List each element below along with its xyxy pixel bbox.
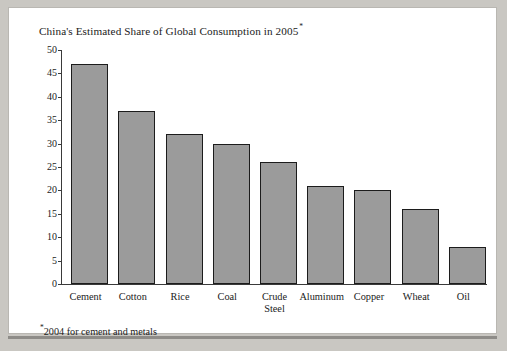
bar-coal[interactable] — [213, 44, 250, 284]
bar-rect — [166, 134, 203, 284]
y-axis-tick-label: 15 — [37, 209, 57, 219]
bars-layer — [62, 44, 487, 284]
y-axis-tick-label: 20 — [37, 185, 57, 195]
bar-rect — [213, 144, 250, 284]
y-axis-tick-label: 50 — [37, 45, 57, 55]
bar-oil[interactable] — [449, 44, 486, 284]
x-axis-category-labels: CementCottonRiceCoalCrudeSteelAluminumCo… — [62, 291, 487, 325]
chart-title-text: China's Estimated Share of Global Consum… — [39, 25, 298, 37]
chart-title: China's Estimated Share of Global Consum… — [39, 23, 302, 37]
bar-rect — [307, 186, 344, 284]
y-axis-tick-label: 30 — [37, 139, 57, 149]
y-axis-tick-label: 10 — [37, 232, 57, 242]
bar-rect — [118, 111, 155, 284]
x-axis-label-oil: Oil — [434, 291, 493, 303]
bar-rect — [71, 64, 108, 284]
bar-cement[interactable] — [71, 44, 108, 284]
y-axis-tick-label: 35 — [37, 115, 57, 125]
bar-aluminum[interactable] — [307, 44, 344, 284]
y-axis-tick-label: 25 — [37, 162, 57, 172]
bar-rect — [402, 209, 439, 284]
x-axis-line — [61, 284, 487, 285]
footnote-asterisk: * — [40, 323, 44, 332]
bar-crude-steel[interactable] — [260, 44, 297, 284]
y-axis-tick-labels: 05101520253035404550 — [37, 44, 57, 289]
y-axis-tick-label: 0 — [37, 279, 57, 289]
bar-rect — [260, 162, 297, 284]
plot-region: 05101520253035404550 — [37, 44, 487, 289]
figure-card: China's Estimated Share of Global Consum… — [8, 7, 497, 334]
figure-frame: China's Estimated Share of Global Consum… — [0, 0, 507, 351]
x-axis-label-line: Steel — [245, 303, 304, 315]
y-axis-tick-label: 40 — [37, 92, 57, 102]
bar-rect — [354, 190, 391, 284]
bar-wheat[interactable] — [402, 44, 439, 284]
figure-shadow — [8, 336, 497, 339]
y-axis-tick-label: 5 — [37, 256, 57, 266]
bar-rect — [449, 247, 486, 284]
y-axis-tick-label: 45 — [37, 68, 57, 78]
bar-copper[interactable] — [354, 44, 391, 284]
x-axis-label-line: Oil — [434, 291, 493, 303]
bar-rice[interactable] — [166, 44, 203, 284]
title-asterisk: * — [299, 22, 303, 31]
bar-cotton[interactable] — [118, 44, 155, 284]
